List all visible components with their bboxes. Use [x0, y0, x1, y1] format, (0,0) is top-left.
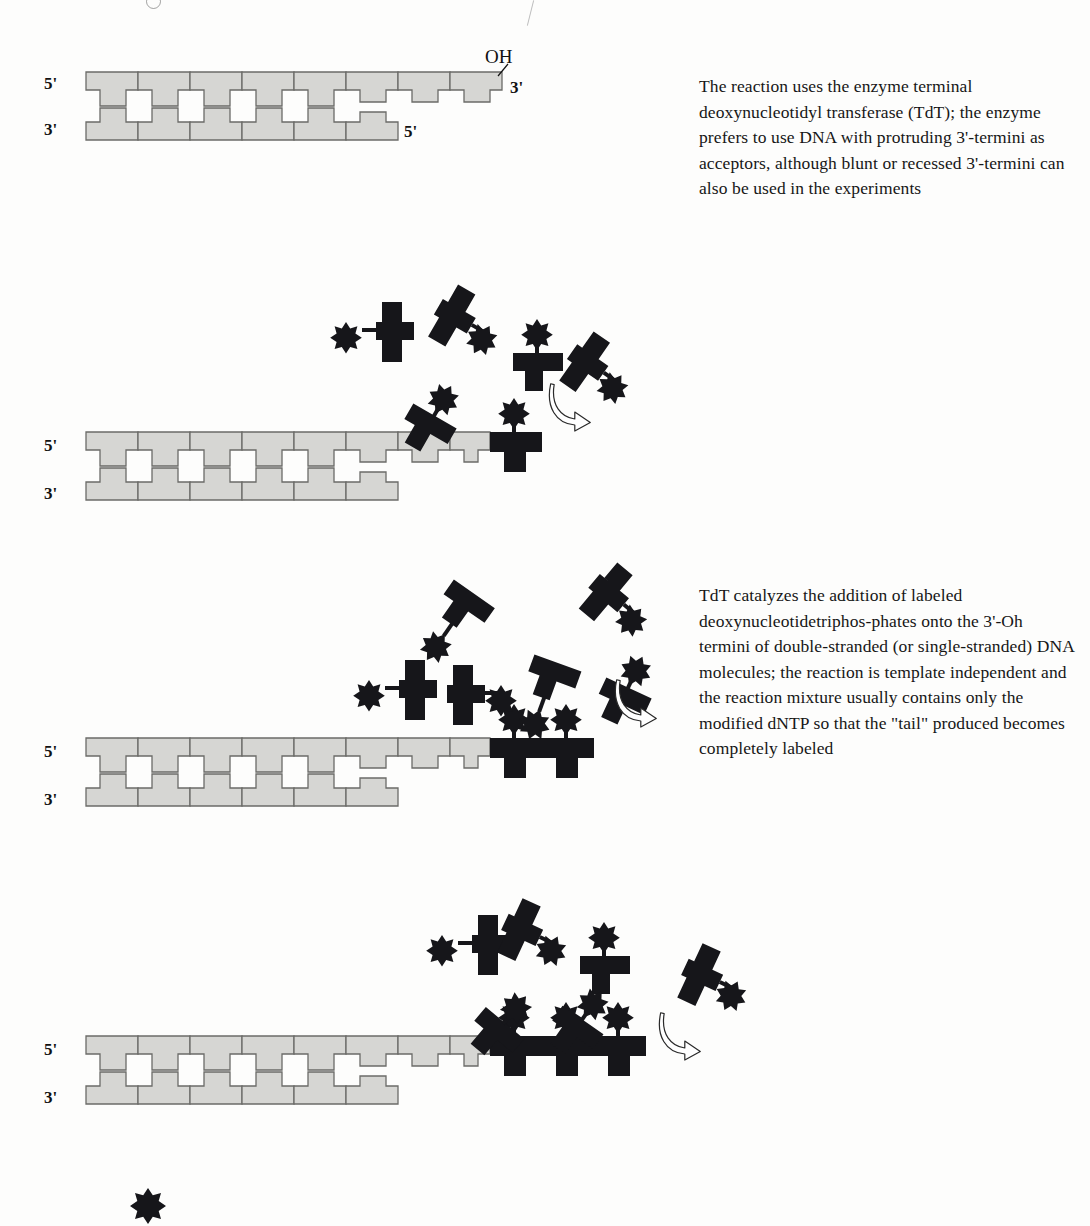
labeled-nucleotide-block	[490, 432, 542, 472]
dna-duplex-panel-1	[86, 72, 516, 142]
reaction-arrow	[657, 1011, 719, 1077]
figure-canvas: 5' 3' 3' 5' OH The reaction uses the enz…	[0, 0, 1090, 1226]
dna-duplex-panel-3	[86, 738, 626, 808]
legend-asterisk-icon	[128, 1186, 168, 1226]
caption-text-1: The reaction uses the enzyme terminal de…	[699, 74, 1071, 202]
panel-1-left-3prime-label: 3'	[44, 120, 57, 140]
panel-1-right-5prime-label: 5'	[404, 122, 417, 142]
panel-1-right-3prime-label: 3'	[510, 78, 523, 98]
panel-1-left-5prime-label: 5'	[44, 74, 57, 94]
panel-3-left-3prime-label: 3'	[44, 790, 57, 810]
reaction-arrow	[613, 678, 675, 744]
panel-4-left-3prime-label: 3'	[44, 1088, 57, 1108]
panel-2-left-3prime-label: 3'	[44, 484, 57, 504]
page-artifact-circle	[146, 0, 161, 9]
caption-text-2: TdT catalyzes the addition of labeled de…	[699, 583, 1077, 762]
hydroxyl-leader-line	[497, 64, 511, 78]
reaction-arrow	[547, 382, 609, 448]
dna-duplex-panel-2	[86, 432, 556, 502]
free-labeled-nucleotide	[355, 650, 447, 724]
panel-2-left-5prime-label: 5'	[44, 436, 57, 456]
panel-3-left-5prime-label: 5'	[44, 742, 57, 762]
page-artifact-tick	[527, 0, 534, 25]
free-labeled-nucleotide	[332, 292, 424, 366]
panel-4-left-5prime-label: 5'	[44, 1040, 57, 1060]
